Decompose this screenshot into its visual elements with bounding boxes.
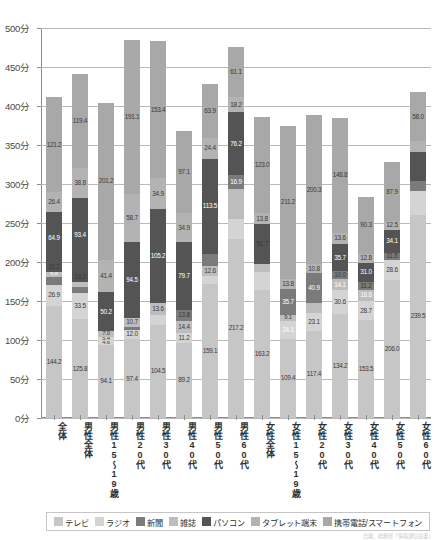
bar-segment: 239.5 — [410, 215, 426, 418]
chart-legend: テレビラジオ新聞雑誌パソコンタブレット端末携帯電話/スマートフォン — [46, 512, 430, 531]
bar-segment: 26.4 — [46, 192, 62, 213]
bar-segment: 24.4 — [202, 138, 218, 159]
bar-segment: 5.4 — [98, 337, 114, 341]
bar-segment: 12.8 — [358, 254, 374, 262]
segment-value-label: 13.6 — [334, 235, 345, 241]
x-axis-label: 女性全体 — [249, 422, 275, 458]
segment-value-label: 61.1 — [230, 69, 241, 75]
segment-value-label: 34.9 — [152, 190, 163, 196]
bar-segment — [228, 189, 244, 218]
bar-stack[interactable]: 89.211.214.413.879.734.997.1 — [176, 131, 192, 418]
y-tickmark-500 — [37, 28, 41, 29]
segment-value-label: 12.0 — [126, 331, 137, 337]
legend-label: パソコン — [213, 516, 244, 528]
segment-value-label: 13.8 — [256, 215, 267, 221]
segment-value-label: 113.5 — [203, 203, 217, 209]
legend-item[interactable]: 新聞 — [136, 516, 163, 528]
legend-item[interactable]: テレビ — [54, 516, 89, 528]
bar-segment: 134.2 — [332, 314, 348, 418]
bar-segment: 35.7 — [280, 289, 296, 315]
segment-value-label: 23.1 — [308, 319, 319, 325]
bar-segment: 11.2 — [46, 263, 62, 272]
bar-stack[interactable]: 125.833.513.293.438.8119.4 — [72, 74, 88, 418]
segment-value-label: 163.2 — [255, 351, 270, 357]
bar-segment: 113.5 — [202, 159, 218, 255]
bar-stack[interactable]: 134.230.614.110.035.713.6148.8 — [332, 118, 348, 418]
legend-item[interactable]: 雑誌 — [169, 516, 196, 528]
segment-value-label: 125.8 — [73, 365, 88, 371]
segment-value-label: 13.2 — [74, 274, 85, 280]
segment-value-label: 13.6 — [152, 306, 163, 312]
legend-item[interactable]: ラジオ — [95, 516, 130, 528]
bar-segment: 11.5 — [384, 253, 400, 261]
segment-value-label: 14.4 — [178, 324, 189, 330]
bar-segment — [228, 219, 244, 239]
bar-stack[interactable]: 94.14.65.47.050.241.4201.2 — [98, 103, 114, 418]
bar-stack[interactable]: 117.423.140.910.8200.3 — [306, 115, 322, 418]
segment-value-label: 31.0 — [360, 269, 371, 275]
segment-value-label: 93.4 — [74, 232, 85, 238]
bar-segment: 123.0 — [254, 117, 270, 213]
y-tickmark-200 — [37, 262, 41, 263]
bar-stack[interactable]: 206.028.611.534.112.587.9 — [384, 162, 400, 418]
segment-value-label: 76.2 — [230, 141, 241, 147]
bar-segment — [306, 303, 322, 313]
bar-segment: 16.9 — [228, 175, 244, 189]
bar-segment: 97.4 — [124, 339, 140, 418]
bar-stack[interactable]: 144.226.96.811.264.926.4121.2 — [46, 97, 62, 418]
bar-segment — [254, 272, 270, 291]
bar-segment: 117.4 — [306, 331, 322, 418]
segment-value-label: 11.2 — [361, 283, 372, 289]
bar-stack[interactable]: 239.558.0 — [410, 92, 426, 418]
segment-value-label: 10.7 — [126, 319, 137, 325]
bar-stack[interactable]: 97.412.010.794.558.7191.1 — [124, 40, 140, 418]
bar-segment: 94.1 — [98, 345, 114, 418]
legend-item[interactable]: パソコン — [202, 516, 245, 528]
segment-value-label: 123.0 — [255, 162, 270, 168]
x-tickmark — [158, 415, 159, 420]
x-tickmark — [262, 415, 263, 420]
bar-stack[interactable]: 159.112.6113.524.463.9 — [202, 84, 218, 418]
x-axis-label: 男性30代 — [145, 422, 171, 469]
bar-segment: 13.8 — [254, 213, 270, 224]
bar-stack[interactable]: 217.216.976.218.261.1 — [228, 47, 244, 418]
segment-value-label: 18.2 — [230, 102, 241, 108]
segment-value-label: 33.5 — [74, 303, 85, 309]
legend-item[interactable]: タブレット端末 — [251, 516, 317, 528]
bar-stack[interactable]: 109.424.19.135.713.8211.2 — [280, 126, 296, 418]
bar-segment: 28.6 — [384, 260, 400, 279]
bar-segment: 13.2 — [72, 272, 88, 282]
segment-value-label: 11.5 — [387, 253, 398, 259]
bar-stack[interactable]: 163.251.713.8123.0 — [254, 117, 270, 418]
bar-segment: 34.9 — [150, 178, 166, 209]
bar-stack[interactable]: 153.528.718.611.231.012.890.3 — [358, 197, 374, 418]
segment-value-label: 200.3 — [307, 187, 322, 193]
bar-segment: 28.7 — [358, 301, 374, 319]
bar-segment — [72, 287, 88, 293]
y-tick-label-0: 0分 — [0, 411, 30, 425]
legend-label: 新聞 — [147, 516, 163, 528]
bar-segment: 76.2 — [228, 112, 244, 175]
bar-segment: 38.8 — [72, 168, 88, 198]
bar-segment: 58.7 — [124, 194, 140, 241]
bar-segment: 159.1 — [202, 284, 218, 418]
segment-value-label: 28.7 — [360, 307, 371, 313]
segment-value-label: 24.1 — [282, 327, 293, 333]
segment-value-label: 24.4 — [204, 145, 215, 151]
segment-value-label: 58.0 — [412, 113, 423, 119]
bar-segment: 24.1 — [280, 321, 296, 338]
bar-segment: 13.6 — [332, 233, 348, 244]
bar-segment: 7.0 — [98, 331, 114, 336]
bar-segment: 33.5 — [72, 293, 88, 319]
y-tick-label-300: 300分 — [0, 177, 30, 191]
bar-segment — [410, 152, 426, 181]
bar-segment: 11.2 — [358, 282, 374, 289]
bar-segment: 153.4 — [150, 41, 166, 178]
x-axis-label: 男性40代 — [171, 422, 197, 469]
legend-item[interactable]: 携帯電話/スマートフォン — [323, 516, 422, 528]
chart-footnote: 出典：総務省「情報通信白書」 — [363, 532, 433, 539]
bar-segment: 90.3 — [358, 197, 374, 255]
bar-stack[interactable]: 104.513.6105.234.9153.4 — [150, 41, 166, 418]
bar-segment: 94.5 — [124, 242, 140, 318]
y-tickmark-300 — [37, 184, 41, 185]
